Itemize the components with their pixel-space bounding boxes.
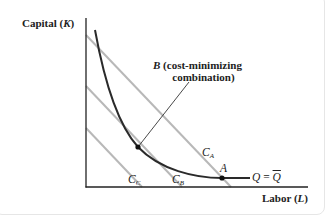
- isocost-label-ca: CA: [202, 146, 214, 160]
- y-axis-label: Capital (K): [22, 17, 74, 29]
- x-axis-label: Labor (L): [262, 192, 308, 204]
- isoquant-label: Q = Q: [252, 171, 281, 183]
- isocost-line-ca: [86, 35, 231, 187]
- isocost-label-cc: CC: [128, 173, 140, 187]
- isocost-line-cb: [86, 86, 182, 187]
- isocost-label-cb: CB: [172, 173, 184, 187]
- point-a-label: A: [220, 162, 227, 174]
- diagram-canvas: [0, 0, 330, 216]
- point-b: [135, 144, 140, 149]
- isoquant-curve: [95, 30, 250, 178]
- point-a: [219, 175, 224, 180]
- b-pointer-line: [138, 82, 189, 147]
- point-b-annotation: B (cost-minimizing combination): [153, 59, 242, 83]
